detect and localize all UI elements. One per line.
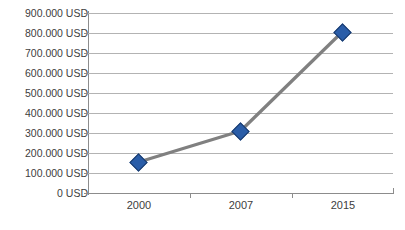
y-axis-tick-label: 600.000 USD [6, 68, 88, 79]
y-axis-tick-label: 800.000 USD [6, 28, 88, 39]
x-axis-tick-label: 2000 [88, 199, 190, 212]
x-axis-tick-label: 2015 [292, 199, 394, 212]
chart-title [0, 0, 405, 1]
x-axis-tick [190, 193, 191, 198]
y-axis-tick-label: 200.000 USD [6, 148, 88, 159]
y-axis-tick-label: 300.000 USD [6, 128, 88, 139]
x-axis-tick [292, 193, 293, 198]
y-axis-tick-label: 500.000 USD [6, 88, 88, 99]
line-chart: 900.000 USD 800.000 USD 700.000 USD 600.… [0, 0, 405, 230]
plot-area [88, 13, 393, 193]
y-axis-tick-label: 400.000 USD [6, 108, 88, 119]
y-axis-tick-label: 900.000 USD [6, 8, 88, 19]
y-axis-tick-label: 100.000 USD [6, 168, 88, 179]
y-axis-tick-label: 0 USD [6, 188, 88, 199]
x-axis-line [88, 193, 394, 194]
x-axis-tick-label: 2007 [190, 199, 292, 212]
y-axis-tick-label: 700.000 USD [6, 48, 88, 59]
x-axis-tick [393, 188, 394, 194]
